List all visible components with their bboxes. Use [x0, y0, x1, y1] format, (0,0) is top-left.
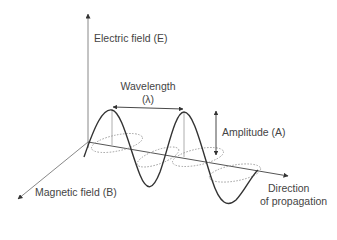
wavelength-arrow — [113, 107, 183, 109]
magnetic-wave — [90, 130, 262, 186]
wavelength-symbol: (λ) — [113, 93, 183, 105]
magnetic-field-label: Magnetic field (B) — [35, 186, 117, 198]
direction-label-line2: of propagation — [260, 195, 327, 207]
electric-field-label: Electric field (E) — [94, 32, 168, 44]
wavelength-label: Wavelength — [113, 80, 183, 92]
amplitude-label: Amplitude (A) — [222, 126, 286, 138]
direction-label-line1: Direction — [268, 182, 309, 194]
